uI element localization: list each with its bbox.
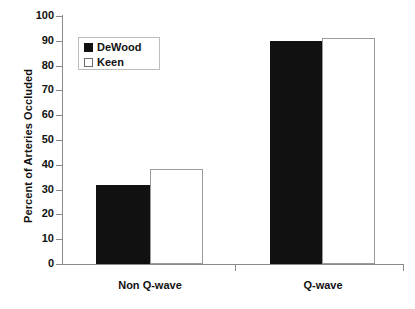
bar-keen-non-q-wave xyxy=(150,169,203,264)
y-axis-tick-label: 80 xyxy=(26,60,54,72)
y-axis-tick-label: 90 xyxy=(26,35,54,47)
y-axis-tick-label-text: 100 xyxy=(28,10,54,21)
y-axis-tick-label-text: 20 xyxy=(28,208,54,219)
y-axis-tick xyxy=(56,214,62,215)
bar-dewood-non-q-wave xyxy=(96,185,151,264)
bar-keen-q-wave xyxy=(322,38,375,264)
x-axis-label-q-wave: Q-wave xyxy=(253,279,393,291)
y-axis-tick-label: 50 xyxy=(26,134,54,146)
y-axis-tick-label-text: 80 xyxy=(28,60,54,71)
y-axis-tick-label: 0 xyxy=(26,258,54,270)
x-axis-label-non-q-wave: Non Q-wave xyxy=(80,279,220,291)
x-axis-category-separator-tick xyxy=(235,264,236,271)
y-axis-tick-label-text: 90 xyxy=(28,35,54,46)
legend: DeWood Keen xyxy=(78,37,160,70)
y-axis-tick xyxy=(56,165,62,166)
legend-label-dewood: DeWood xyxy=(97,42,141,53)
y-axis-tick xyxy=(56,140,62,141)
y-axis-tick-label-text: 50 xyxy=(28,134,54,145)
y-axis-tick-label: 20 xyxy=(26,208,54,220)
y-axis-tick-label: 70 xyxy=(26,84,54,96)
y-axis-tick-label-text: 30 xyxy=(28,184,54,195)
bar-chart: Percent of Arteries Occluded 01020304050… xyxy=(0,0,415,309)
y-axis-tick xyxy=(56,190,62,191)
legend-swatch-dewood-icon xyxy=(84,43,93,52)
x-axis-line xyxy=(62,264,404,265)
legend-swatch-keen-icon xyxy=(84,58,93,67)
y-axis-tick-label-text: 0 xyxy=(28,258,54,269)
y-axis-tick xyxy=(56,41,62,42)
y-axis-tick xyxy=(56,16,62,17)
x-axis-end-tick xyxy=(403,264,404,271)
legend-item-dewood: DeWood xyxy=(84,40,155,54)
legend-label-keen: Keen xyxy=(97,57,124,68)
y-axis-tick-label-text: 60 xyxy=(28,109,54,120)
y-axis-tick-label-text: 70 xyxy=(28,84,54,95)
y-axis-tick xyxy=(56,115,62,116)
y-axis-line xyxy=(62,15,63,265)
y-axis-tick-label-text: 40 xyxy=(28,159,54,170)
y-axis-tick-label: 40 xyxy=(26,159,54,171)
y-axis-tick-label: 100 xyxy=(26,10,54,22)
bar-dewood-q-wave xyxy=(270,41,323,264)
y-axis-tick-label-text: 10 xyxy=(28,233,54,244)
y-axis-tick xyxy=(56,90,62,91)
y-axis-tick-label: 30 xyxy=(26,184,54,196)
y-axis-tick-label: 60 xyxy=(26,109,54,121)
y-axis-tick xyxy=(56,264,62,265)
legend-item-keen: Keen xyxy=(84,55,155,69)
y-axis-tick-label: 10 xyxy=(26,233,54,245)
y-axis-tick xyxy=(56,239,62,240)
y-axis-tick xyxy=(56,66,62,67)
